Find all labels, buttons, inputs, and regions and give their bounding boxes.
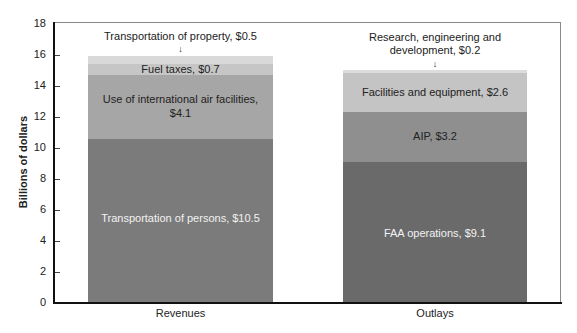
y-axis-line	[53, 22, 55, 304]
annotation-transportation-of-property: Transportation of property, $0.5	[88, 30, 273, 43]
category-label-outlays: Outlays	[343, 307, 527, 319]
x-axis-line	[53, 302, 562, 304]
segment-facilities-and-equipment: Facilities and equipment, $2.6	[343, 73, 527, 112]
tick-mark	[55, 272, 60, 273]
segment-label: $4.1	[88, 107, 273, 120]
tick-label: 18	[16, 17, 46, 29]
segment-label: Use of international air facilities,	[88, 93, 273, 106]
tick-label: 16	[16, 48, 46, 60]
revenues-bar: Fuel taxes, $0.7 Use of international ai…	[88, 56, 273, 303]
tick-label: 12	[16, 110, 46, 122]
segment-fuel-taxes: Fuel taxes, $0.7	[88, 64, 273, 75]
outlays-bar: Facilities and equipment, $2.6 AIP, $3.2…	[343, 70, 527, 303]
tick-label: 0	[16, 296, 46, 308]
segment-label: FAA operations, $9.1	[343, 227, 527, 240]
tick-mark	[55, 241, 60, 242]
annotation-line: Research, engineering and	[343, 31, 527, 44]
tick-label: 2	[16, 265, 46, 277]
tick-mark	[55, 55, 60, 56]
segment-international-air-facilities: Use of international air facilities, $4.…	[88, 75, 273, 139]
arrow-down-icon: ↓	[343, 60, 527, 69]
tick-mark	[55, 86, 60, 87]
segment-label: Facilities and equipment, $2.6	[343, 86, 527, 99]
segment-faa-operations: FAA operations, $9.1	[343, 162, 527, 303]
tick-mark	[55, 179, 60, 180]
segment-label: Transportation of persons, $10.5	[88, 212, 273, 225]
tick-mark	[55, 117, 60, 118]
y-axis-label: Billions of dollars	[17, 107, 29, 217]
annotation-research-engineering-development: Research, engineering and development, $…	[343, 31, 527, 57]
segment-aip: AIP, $3.2	[343, 112, 527, 162]
tick-label: 8	[16, 172, 46, 184]
tick-label: 14	[16, 79, 46, 91]
segment-label: AIP, $3.2	[343, 130, 527, 143]
annotation-line: development, $0.2	[343, 44, 527, 57]
arrow-down-icon: ↓	[88, 45, 273, 54]
tick-mark	[55, 148, 60, 149]
category-label-revenues: Revenues	[88, 307, 273, 319]
segment-transportation-of-persons: Transportation of persons, $10.5	[88, 139, 273, 303]
tick-label: 10	[16, 141, 46, 153]
tick-mark	[55, 210, 60, 211]
tick-label: 4	[16, 234, 46, 246]
tick-label: 6	[16, 203, 46, 215]
